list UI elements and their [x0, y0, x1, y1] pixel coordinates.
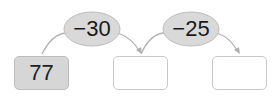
- answer-box-1[interactable]: [113, 56, 168, 90]
- operation-label-1: −30: [63, 12, 121, 46]
- answer-box-2[interactable]: [212, 56, 267, 90]
- arc-arrow: [118, 33, 140, 52]
- start-value-box: 77: [14, 56, 69, 90]
- arc-line: [141, 33, 164, 54]
- arrowhead-icon: [234, 47, 240, 54]
- operation-label-2: −25: [162, 12, 220, 46]
- arc-arrow: [217, 33, 238, 52]
